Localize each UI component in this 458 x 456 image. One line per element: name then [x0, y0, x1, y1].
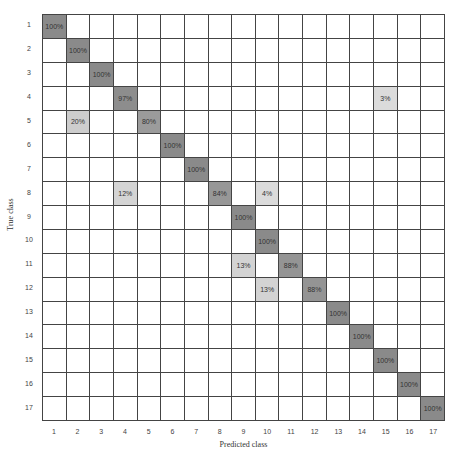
matrix-cell	[161, 39, 185, 63]
y-tick-label: 8	[22, 189, 36, 196]
matrix-cell	[256, 111, 280, 135]
matrix-cell	[138, 63, 162, 87]
matrix-cell: 100%	[67, 39, 91, 63]
matrix-cell	[350, 373, 374, 397]
matrix-cell	[398, 254, 422, 278]
x-tick-label: 16	[397, 428, 421, 435]
matrix-cell	[161, 230, 185, 254]
matrix-cell	[138, 349, 162, 373]
matrix-cell	[279, 15, 303, 39]
matrix-cell	[161, 15, 185, 39]
matrix-cell	[232, 182, 256, 206]
matrix-cell	[279, 134, 303, 158]
matrix-cell	[90, 39, 114, 63]
matrix-cell	[279, 87, 303, 111]
matrix-cell	[161, 373, 185, 397]
matrix-cell: 13%	[256, 278, 280, 302]
matrix-cell	[327, 111, 351, 135]
matrix-cell	[114, 278, 138, 302]
matrix-cell	[256, 158, 280, 182]
matrix-cell: 100%	[161, 134, 185, 158]
matrix-cell	[90, 111, 114, 135]
matrix-cell	[421, 254, 445, 278]
y-tick-label: 16	[22, 380, 36, 387]
matrix-cell	[327, 397, 351, 421]
matrix-cell	[232, 134, 256, 158]
matrix-cell: 13%	[232, 254, 256, 278]
matrix-cell: 100%	[185, 158, 209, 182]
matrix-cell	[256, 134, 280, 158]
y-tick-label: 5	[22, 117, 36, 124]
matrix-cell	[421, 278, 445, 302]
matrix-cell	[138, 15, 162, 39]
matrix-cell	[303, 230, 327, 254]
matrix-cell	[161, 63, 185, 87]
matrix-cell	[209, 39, 233, 63]
matrix-cell	[350, 182, 374, 206]
matrix-cell	[256, 15, 280, 39]
y-tick-label: 10	[22, 236, 36, 243]
x-tick-label: 9	[232, 428, 256, 435]
matrix-cell	[209, 158, 233, 182]
matrix-cell	[90, 325, 114, 349]
x-axis-label: Predicted class	[42, 440, 445, 449]
matrix-cell	[114, 349, 138, 373]
matrix-cell	[327, 278, 351, 302]
matrix-cell	[185, 111, 209, 135]
matrix-cell	[161, 87, 185, 111]
matrix-cell	[279, 230, 303, 254]
matrix-cell	[161, 182, 185, 206]
matrix-cell	[209, 87, 233, 111]
matrix-cell	[421, 325, 445, 349]
matrix-cell: 88%	[303, 278, 327, 302]
matrix-cell	[43, 302, 67, 326]
matrix-cell: 20%	[67, 111, 91, 135]
matrix-cell	[67, 206, 91, 230]
matrix-cell	[374, 373, 398, 397]
matrix-cell	[161, 254, 185, 278]
matrix-cell	[185, 15, 209, 39]
matrix-cell	[114, 254, 138, 278]
matrix-cell	[374, 63, 398, 87]
matrix-cell	[303, 349, 327, 373]
matrix-cell	[90, 373, 114, 397]
matrix-cell	[374, 325, 398, 349]
matrix-cell	[114, 230, 138, 254]
matrix-cell	[421, 302, 445, 326]
x-tick-label: 6	[160, 428, 184, 435]
matrix-cell	[327, 325, 351, 349]
matrix-cell	[138, 302, 162, 326]
matrix-cell	[161, 302, 185, 326]
matrix-cell	[421, 349, 445, 373]
matrix-cell	[90, 134, 114, 158]
matrix-cell	[161, 325, 185, 349]
matrix-cell	[398, 39, 422, 63]
matrix-cell	[350, 111, 374, 135]
matrix-cell	[90, 230, 114, 254]
matrix-cell	[161, 206, 185, 230]
matrix-cell	[421, 111, 445, 135]
matrix-cell	[67, 397, 91, 421]
x-tick-label: 3	[89, 428, 113, 435]
matrix-cell	[421, 134, 445, 158]
matrix-cell	[138, 278, 162, 302]
matrix-cell	[232, 87, 256, 111]
matrix-cell	[279, 278, 303, 302]
matrix-cell	[43, 373, 67, 397]
matrix-cell	[43, 397, 67, 421]
matrix-cell	[209, 373, 233, 397]
matrix-cell	[185, 397, 209, 421]
matrix-cell	[209, 15, 233, 39]
matrix-cell	[327, 254, 351, 278]
y-tick-label: 17	[22, 404, 36, 411]
matrix-cell	[374, 230, 398, 254]
matrix-cell	[279, 206, 303, 230]
matrix-cell	[256, 63, 280, 87]
x-tick-label: 14	[350, 428, 374, 435]
matrix-cell	[138, 254, 162, 278]
matrix-cell	[67, 278, 91, 302]
matrix-cell	[303, 134, 327, 158]
matrix-cell	[185, 373, 209, 397]
matrix-cell	[209, 134, 233, 158]
matrix-cell	[303, 325, 327, 349]
